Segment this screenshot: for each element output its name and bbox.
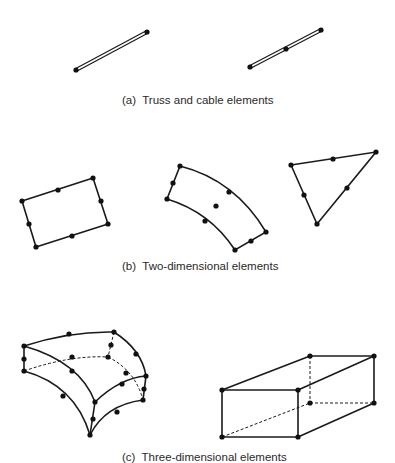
caption-truss-elements: (a) Truss and cable elements [122, 94, 274, 106]
quadrilateral-element [19, 175, 110, 249]
triangle-element [288, 149, 378, 226]
caption-two-dimensional-elements: (b) Two-dimensional elements [122, 260, 278, 272]
truss-element-two-node [73, 29, 149, 72]
caption-three-dimensional-elements: (c) Three-dimensional elements [122, 451, 287, 463]
curved-brick-element [21, 329, 148, 437]
truss-element-three-node [247, 27, 323, 69]
brick-element [219, 353, 376, 439]
curved-quadrilateral-element [164, 163, 268, 252]
